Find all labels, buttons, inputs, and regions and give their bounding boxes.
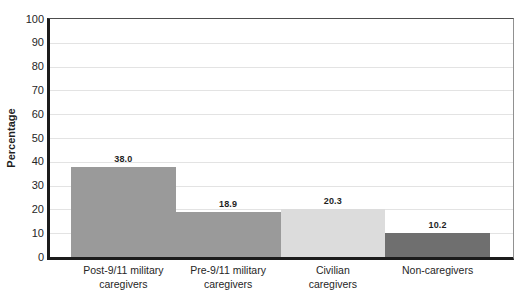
y-tick-label: 50	[14, 132, 44, 144]
gridline	[50, 43, 513, 44]
gridline	[50, 90, 513, 91]
y-tick-label: 80	[14, 60, 44, 72]
y-tick-label: 60	[14, 108, 44, 120]
gridline	[50, 138, 513, 139]
gridline	[50, 67, 513, 68]
plot-area: 38.018.920.310.2	[47, 18, 514, 260]
y-tick-label: 20	[14, 203, 44, 215]
bar	[281, 209, 386, 257]
bar-value-label: 20.3	[281, 196, 386, 206]
y-tick-label: 90	[14, 36, 44, 48]
y-tick-label: 70	[14, 84, 44, 96]
bar-value-label: 38.0	[71, 154, 176, 164]
gridline	[50, 114, 513, 115]
y-tick-label: 0	[14, 251, 44, 263]
bar	[176, 212, 281, 257]
x-category-label: Non-caregivers	[376, 264, 500, 278]
y-tick-label: 100	[14, 13, 44, 25]
bar	[385, 233, 490, 257]
bar-value-label: 18.9	[176, 199, 281, 209]
y-tick-label: 30	[14, 179, 44, 191]
bar-value-label: 10.2	[385, 220, 490, 230]
y-tick-label: 40	[14, 155, 44, 167]
y-tick-label: 10	[14, 227, 44, 239]
bar	[71, 167, 176, 257]
chart-container: Percentage 38.018.920.310.2 010203040506…	[0, 0, 521, 299]
